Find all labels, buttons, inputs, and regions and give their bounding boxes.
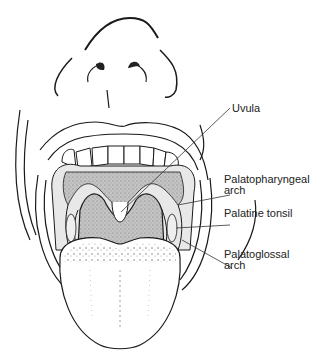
nostril-left	[88, 62, 105, 82]
nostril-right	[128, 62, 146, 82]
label-palatine-tonsil: Palatine tonsil	[224, 208, 293, 219]
oral-cavity	[52, 164, 195, 250]
upper-teeth	[62, 146, 178, 168]
label-uvula: Uvula	[232, 103, 260, 114]
nose	[55, 18, 177, 108]
label-palatopharyngeal-arch: Palatopharyngeal arch	[224, 174, 310, 196]
label-palatoglossal-arch: Palatoglossal arch	[224, 249, 289, 271]
tongue	[60, 238, 180, 349]
